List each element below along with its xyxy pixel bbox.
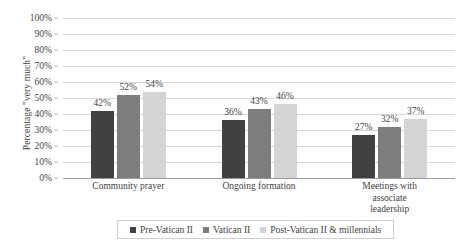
legend-label: Vatican II [213, 225, 250, 235]
plot-area: 42%52%54%36%43%46%27%32%37% [63, 18, 455, 178]
y-axis-tick-mark [54, 178, 58, 179]
bar-value-label: 52% [120, 82, 137, 92]
bar-value-label: 42% [94, 98, 111, 108]
bar [274, 104, 297, 178]
x-axis-category-label: Meetings with associateleadership [357, 181, 422, 216]
y-axis-tick-mark [54, 130, 58, 131]
bar-value-label: 36% [224, 107, 241, 117]
legend-swatch-icon [130, 227, 136, 233]
y-axis-tick-label: 10% [35, 157, 52, 167]
bars-layer: 42%52%54%36%43%46%27%32%37% [63, 18, 455, 178]
bar [248, 109, 271, 178]
y-axis-tick-label: 50% [35, 93, 52, 103]
bar [222, 120, 245, 178]
y-axis-tick-mark [54, 146, 58, 147]
bar-value-label: 32% [381, 114, 398, 124]
bar [143, 92, 166, 178]
y-axis-tick-label: 80% [35, 45, 52, 55]
x-axis-category-label: Ongoing formation [222, 181, 295, 193]
y-axis-tick-mark [54, 114, 58, 115]
y-axis-tick-mark [54, 66, 58, 67]
y-axis-tick-mark [54, 82, 58, 83]
y-axis-tick-mark [54, 162, 58, 163]
bar [91, 111, 114, 178]
x-axis-category-labels: Community prayerOngoing formationMeeting… [63, 181, 455, 215]
y-axis-tick-label: 0% [39, 173, 52, 183]
y-axis-tick-mark [54, 98, 58, 99]
y-axis-tick-label: 60% [35, 77, 52, 87]
y-axis-tick-label: 30% [35, 125, 52, 135]
y-axis-tick-label: 70% [35, 61, 52, 71]
y-axis-tick-mark [54, 50, 58, 51]
bar-value-label: 46% [276, 91, 293, 101]
y-axis-tick-labels: 100%90%80%70%60%50%40%30%20%10%0% [0, 18, 58, 178]
bar [404, 119, 427, 178]
y-axis-tick-label: 100% [30, 13, 52, 23]
legend: Pre-Vatican IIVatican IIPost-Vatican II … [117, 220, 394, 239]
bar [117, 95, 140, 178]
bar-value-label: 43% [250, 96, 267, 106]
legend-label: Post-Vatican II & millennials [270, 225, 381, 235]
y-axis-tick-label: 40% [35, 109, 52, 119]
bar-chart: Percentage "very much" 100%90%80%70%60%5… [0, 0, 467, 250]
y-axis-tick-label: 20% [35, 141, 52, 151]
legend-swatch-icon [203, 227, 209, 233]
gridline [63, 178, 455, 179]
bar-value-label: 54% [146, 79, 163, 89]
x-axis-category-label: Community prayer [92, 181, 164, 193]
legend-swatch-icon [260, 227, 266, 233]
legend-label: Pre-Vatican II [140, 225, 193, 235]
bar-value-label: 37% [407, 106, 424, 116]
bar-value-label: 27% [355, 122, 372, 132]
y-axis-tick-mark [54, 34, 58, 35]
bar [378, 127, 401, 178]
y-axis-tick-label: 90% [35, 29, 52, 39]
y-axis-tick-mark [54, 18, 58, 19]
legend-item[interactable]: Post-Vatican II & millennials [260, 225, 381, 235]
bar [352, 135, 375, 178]
legend-item[interactable]: Vatican II [203, 225, 250, 235]
legend-item[interactable]: Pre-Vatican II [130, 225, 193, 235]
